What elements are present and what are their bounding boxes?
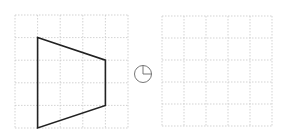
left-grid	[15, 15, 128, 128]
rotation-icon	[135, 66, 152, 83]
trapezoid-shape	[38, 38, 106, 128]
right-grid	[162, 16, 272, 126]
rotation-diagram	[0, 0, 283, 135]
